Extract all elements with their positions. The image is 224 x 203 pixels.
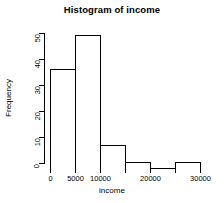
histogram-bar <box>125 162 151 169</box>
y-axis-line <box>44 33 45 164</box>
y-tick-0: 0 <box>39 163 44 164</box>
y-tick-label-0: 0 <box>33 164 41 168</box>
plot-area: 0 10 20 30 40 50 0 5000 10000 200 <box>0 0 224 203</box>
x-tick-label-10000: 10000 <box>90 175 111 183</box>
y-tick-10: 10 <box>39 137 44 138</box>
x-axis-title: income <box>0 186 224 195</box>
y-axis-title: Frequency <box>4 79 13 117</box>
histogram-bar <box>100 145 126 169</box>
y-tick-40: 40 <box>39 59 44 60</box>
histogram-bar <box>175 162 201 169</box>
histogram-figure: Histogram of income 0 10 20 30 40 50 0 5… <box>0 0 224 203</box>
y-tick-label-20: 20 <box>33 112 41 120</box>
x-tick-label-30000: 30000 <box>190 175 211 183</box>
histogram-bar <box>50 69 76 169</box>
x-tick-label-5000: 5000 <box>67 175 84 183</box>
y-tick-label-50: 50 <box>33 34 41 42</box>
histogram-bar <box>75 35 101 169</box>
y-tick-30: 30 <box>39 85 44 86</box>
y-tick-50: 50 <box>39 33 44 34</box>
y-tick-label-10: 10 <box>33 138 41 146</box>
x-tick-label-20000: 20000 <box>140 175 161 183</box>
histogram-bar <box>150 168 176 169</box>
x-tick-label-0: 0 <box>48 175 52 183</box>
y-tick-label-30: 30 <box>33 86 41 94</box>
y-tick-label-40: 40 <box>33 60 41 68</box>
y-tick-20: 20 <box>39 111 44 112</box>
